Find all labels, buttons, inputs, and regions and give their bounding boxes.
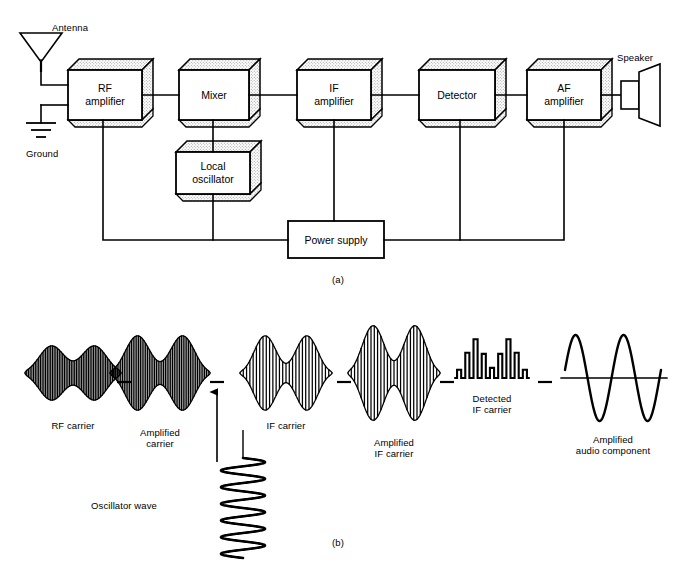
waveform-label-amplified-carrier: carrier (146, 438, 174, 449)
block-label-line1: RF (98, 82, 112, 94)
block-local-oscillator[interactable]: Localoscillator (176, 141, 261, 201)
block-label-line2: amplifier (85, 95, 125, 107)
block-top-face (176, 141, 261, 152)
block-label-line1: AF (557, 82, 570, 94)
waveform-label-if-carrier: IF carrier (267, 420, 306, 431)
antenna-icon (20, 33, 62, 72)
waveform-label-amplified-if-carrier: IF carrier (375, 448, 414, 459)
wire-detector-to-bus (384, 120, 460, 240)
panel-b-caption: (b) (332, 537, 344, 548)
wire-af-to-bus (460, 120, 564, 240)
block-label: Detector (437, 89, 477, 101)
ground-label: Ground (26, 148, 58, 159)
block-mixer[interactable]: Mixer (179, 59, 260, 127)
block-label-line2: amplifier (544, 95, 584, 107)
figure-canvas: RFamplifierMixerIFamplifierDetectorAFamp… (0, 0, 676, 574)
waveform-label-amplified-carrier: Amplified (140, 427, 180, 438)
waveform-amplified-if-carrier (348, 326, 440, 421)
speaker-icon (621, 64, 660, 126)
panel-a-blocks: RFamplifierMixerIFamplifierDetectorAFamp… (68, 59, 612, 258)
speaker-label: Speaker (617, 52, 653, 63)
block-power-supply[interactable]: Power supply (288, 221, 384, 258)
block-top-face (527, 59, 612, 70)
waveform-label-detected-if-carrier: IF carrier (473, 404, 512, 415)
panel-a-caption: (a) (332, 274, 344, 285)
ground-icon (26, 123, 56, 137)
block-label: Mixer (201, 89, 227, 101)
waveform-label-amplified-audio: Amplified (593, 434, 633, 445)
waveform-oscillator-wave (221, 458, 265, 558)
block-label-line1: Local (200, 160, 225, 172)
waveform-label-rf-carrier: RF carrier (51, 420, 94, 431)
oscillator-sine-trace (221, 458, 265, 558)
waveform-label-amplified-audio: audio component (576, 445, 650, 456)
waveform-label-amplified-if-carrier: Amplified (374, 437, 414, 448)
waveform-label-detected-if-carrier: Detected (473, 393, 512, 404)
block-detector[interactable]: Detector (419, 59, 506, 127)
block-label: Power supply (304, 234, 368, 246)
block-rf-amplifier[interactable]: RFamplifier (68, 59, 153, 127)
rectified-pulse-train (455, 339, 529, 378)
block-af-amplifier[interactable]: AFamplifier (527, 59, 612, 127)
block-label-line1: IF (329, 82, 338, 94)
block-top-face (68, 59, 153, 70)
waveform-if-carrier (240, 336, 332, 410)
receiver-block-diagram-figure: RFamplifierMixerIFamplifierDetectorAFamp… (0, 0, 676, 574)
waveform-amplified-carrier (110, 336, 210, 410)
wire-antenna-to-rf (41, 60, 68, 85)
block-if-amplifier[interactable]: IFamplifier (297, 59, 382, 127)
block-label-line2: oscillator (192, 173, 234, 185)
waveform-detected-if-carrier (455, 339, 529, 378)
panel-b-waveforms (25, 326, 667, 558)
antenna-label: Antenna (52, 22, 88, 33)
block-top-face (419, 59, 506, 70)
waveform-rf-carrier (25, 346, 121, 400)
block-top-face (297, 59, 382, 70)
block-top-face (179, 59, 260, 70)
block-label-line2: amplifier (314, 95, 354, 107)
waveform-label-oscillator-wave: Oscillator wave (91, 500, 157, 511)
waveform-amplified-audio (561, 335, 667, 421)
